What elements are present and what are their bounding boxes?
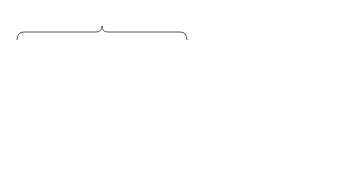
k1-brace	[17, 26, 187, 40]
carrying-capacity-diagram	[0, 0, 348, 191]
